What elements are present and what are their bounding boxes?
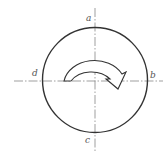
rotation-diagram: a b c d (0, 0, 167, 162)
label-d: d (32, 68, 38, 78)
label-b: b (150, 70, 156, 80)
label-c: c (85, 135, 90, 145)
label-a: a (86, 13, 91, 23)
